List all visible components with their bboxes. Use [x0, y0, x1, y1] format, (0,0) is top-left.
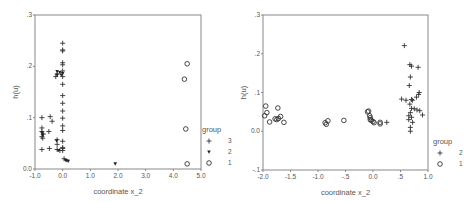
y-tick-label: .3 — [255, 11, 261, 18]
x-tick-label: -1.5 — [285, 173, 297, 180]
y-tick-label: .3 — [27, 11, 33, 18]
plus-marker — [438, 151, 443, 156]
y-axis-label: h(u) — [11, 85, 20, 99]
x-tick-label: -.5 — [342, 173, 350, 180]
scatter-chart-left: -1.00.01.02.03.04.05.00.0.1.2.3coordinat… — [0, 0, 237, 202]
circle-marker — [438, 162, 443, 167]
triangle-marker — [207, 151, 211, 154]
x-tick-label: 0.0 — [58, 172, 67, 179]
x-tick-label: -2.0 — [257, 173, 269, 180]
legend-entry-label: 1 — [459, 160, 463, 167]
legend-entry-label: 2 — [228, 148, 232, 155]
legend: group321 — [202, 125, 232, 166]
x-tick-label: 4.0 — [169, 172, 178, 179]
legend-entry-label: 2 — [459, 149, 463, 156]
y-tick-label: 0.0 — [251, 127, 260, 134]
legend-entry-label: 1 — [228, 159, 232, 166]
x-tick-label: 1.0 — [423, 173, 432, 180]
x-tick-label: 0.0 — [368, 173, 377, 180]
plot-frame — [263, 15, 428, 170]
x-axis-label: coordinate x_2 — [93, 187, 142, 196]
x-tick-label: 1.0 — [86, 172, 95, 179]
x-tick-label: -1.0 — [312, 173, 324, 180]
y-tick-label: 0.0 — [23, 165, 32, 172]
plus-marker — [207, 139, 212, 144]
circle-marker — [207, 161, 212, 166]
x-tick-label: 2.0 — [113, 172, 122, 179]
y-tick-label: .2 — [255, 50, 261, 57]
y-axis-label: h(u) — [239, 85, 248, 99]
plot-frame — [35, 15, 201, 169]
x-tick-label: .5 — [398, 173, 404, 180]
plot-svg-left: -1.00.01.02.03.04.05.00.0.1.2.3coordinat… — [0, 0, 237, 202]
legend-title: group — [433, 137, 452, 146]
y-tick-label: -.1 — [252, 166, 260, 173]
x-tick-label: -1.0 — [29, 172, 41, 179]
legend-entry-label: 3 — [228, 137, 232, 144]
x-axis-label: coordinate x_2 — [321, 188, 370, 197]
y-tick-label: .1 — [255, 89, 261, 96]
x-tick-label: 3.0 — [141, 172, 150, 179]
y-tick-label: .2 — [27, 62, 33, 69]
plot-svg-right: -2.0-1.5-1.0-.50.0.51.0-.10.0.1.2.3coord… — [237, 0, 474, 202]
scatter-chart-right: -2.0-1.5-1.0-.50.0.51.0-.10.0.1.2.3coord… — [237, 0, 474, 202]
legend-title: group — [202, 125, 221, 134]
x-tick-label: 5.0 — [196, 172, 205, 179]
y-tick-label: .1 — [27, 114, 33, 121]
legend: group21 — [433, 137, 463, 167]
